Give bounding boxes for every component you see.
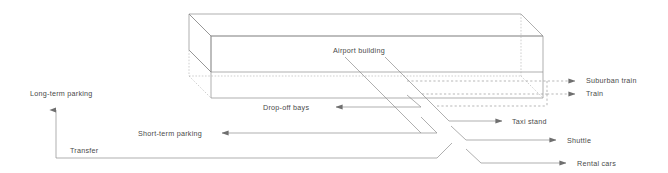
- airport-building-shape: [189, 14, 543, 98]
- label-shuttle: Shuttle: [567, 137, 591, 144]
- short-term-parking-riser: [421, 117, 437, 133]
- road-connections-right: [449, 121, 566, 163]
- label-train: Train: [586, 90, 603, 97]
- label-rental-cars: Rental cars: [577, 160, 616, 167]
- short-term-parking-connection: [222, 117, 437, 133]
- diagram-canvas: [0, 0, 668, 173]
- hidden-bottom-left-diagonal: [189, 76, 211, 98]
- airport-access-diagram: Airport building Long-term parking Trans…: [0, 0, 668, 173]
- label-short-term-parking: Short-term parking: [138, 130, 202, 137]
- label-drop-off-bays: Drop-off bays: [263, 104, 309, 111]
- hidden-bottom-right-diagonal: [521, 76, 543, 98]
- label-taxi-stand: Taxi stand: [512, 118, 547, 125]
- shuttle-line: [451, 126, 556, 140]
- leader-line-left: [345, 57, 421, 133]
- rail-connections: [407, 81, 575, 106]
- building-top-face: [189, 14, 543, 36]
- airport-building-hidden-edges: [189, 14, 543, 98]
- leader-line-right: [385, 57, 449, 121]
- building-left-end-lower: [189, 50, 211, 98]
- drop-off-bays-connection: [336, 95, 421, 107]
- airport-building-leader-lines: [345, 57, 449, 133]
- building-left-end-upper: [189, 14, 211, 72]
- label-transfer: Transfer: [70, 147, 99, 154]
- label-long-term-parking: Long-term parking: [30, 90, 93, 97]
- label-airport-building: Airport building: [333, 47, 385, 54]
- rental-cars-line: [466, 149, 566, 163]
- transfer-spine: [56, 110, 452, 158]
- label-suburban-train: Suburban train: [586, 77, 637, 84]
- drop-off-bays-riser: [407, 95, 421, 107]
- transfer-right-diagonal: [437, 143, 452, 158]
